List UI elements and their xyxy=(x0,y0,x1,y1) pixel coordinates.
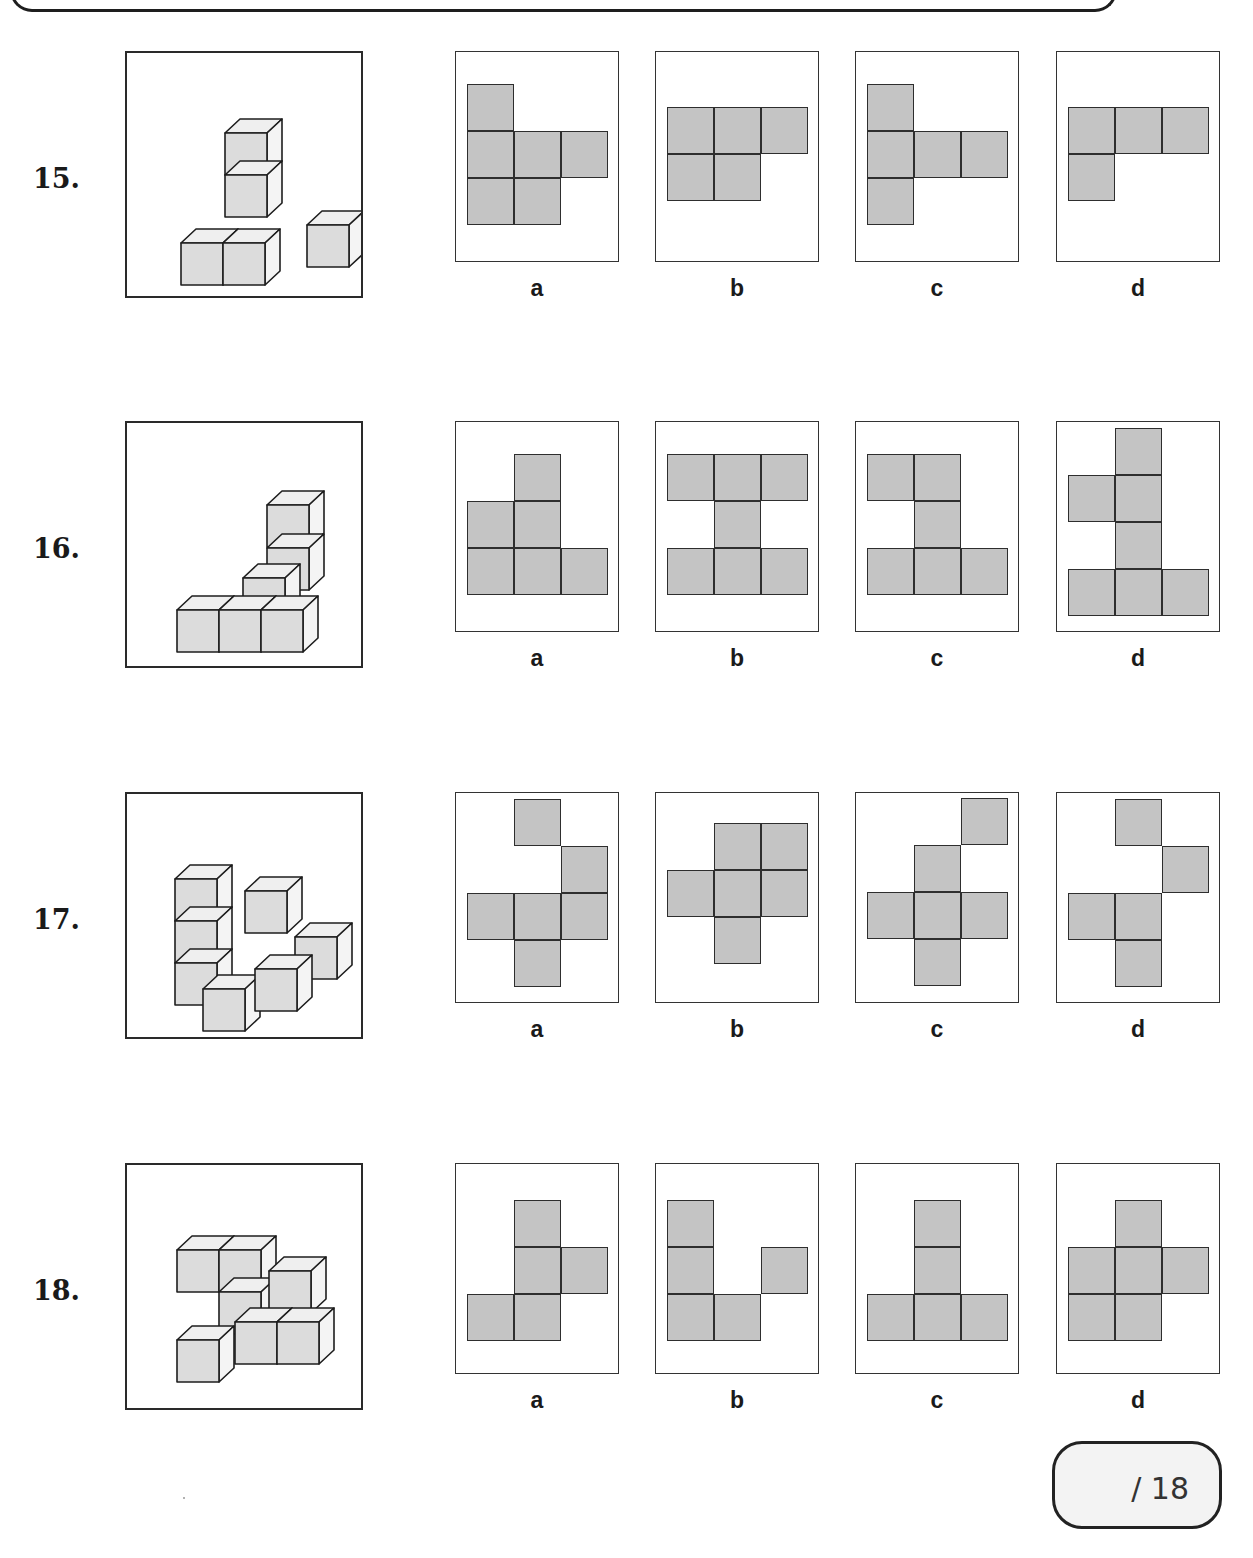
answer-option-c[interactable]: c xyxy=(855,792,1019,1003)
net-square xyxy=(867,84,914,131)
net-square xyxy=(1162,107,1209,154)
net-square xyxy=(514,1200,561,1247)
answer-option-a[interactable]: a xyxy=(455,792,619,1003)
net-square xyxy=(514,799,561,846)
score-total: / 18 xyxy=(1131,1471,1189,1506)
answer-option-d[interactable]: d xyxy=(1056,792,1220,1003)
answer-option-c[interactable]: c xyxy=(855,1163,1019,1374)
net-diagram[interactable] xyxy=(455,51,619,262)
net-diagram[interactable] xyxy=(455,792,619,1003)
question-number: 15. xyxy=(33,163,113,194)
net-square xyxy=(1115,522,1162,569)
net-square xyxy=(914,939,961,986)
answer-option-a[interactable]: a xyxy=(455,421,619,632)
net-square xyxy=(1115,428,1162,475)
net-square xyxy=(667,454,714,501)
net-square xyxy=(961,548,1008,595)
answer-option-d[interactable]: d xyxy=(1056,1163,1220,1374)
answer-option-c[interactable]: c xyxy=(855,421,1019,632)
net-square xyxy=(1068,475,1115,522)
net-square xyxy=(714,154,761,201)
net-square xyxy=(1068,107,1115,154)
answer-option-d[interactable]: d xyxy=(1056,421,1220,632)
option-label: c xyxy=(855,1016,1019,1043)
net-square xyxy=(467,131,514,178)
net-square xyxy=(761,1247,808,1294)
net-square xyxy=(514,548,561,595)
option-label: c xyxy=(855,275,1019,302)
answer-option-a[interactable]: a xyxy=(455,51,619,262)
net-square xyxy=(714,454,761,501)
option-label: b xyxy=(655,275,819,302)
net-square xyxy=(514,178,561,225)
net-square xyxy=(1068,893,1115,940)
net-square xyxy=(914,1247,961,1294)
question-row: 15.abcd xyxy=(0,50,1253,350)
net-square xyxy=(867,892,914,939)
net-square xyxy=(514,131,561,178)
net-square xyxy=(514,893,561,940)
net-square xyxy=(914,1200,961,1247)
option-label: a xyxy=(455,1387,619,1414)
net-square xyxy=(1068,154,1115,201)
net-square xyxy=(514,454,561,501)
answer-option-c[interactable]: c xyxy=(855,51,1019,262)
question-number: 16. xyxy=(33,533,113,564)
net-square xyxy=(667,1294,714,1341)
net-square xyxy=(1162,846,1209,893)
net-square xyxy=(1115,799,1162,846)
answer-option-b[interactable]: b xyxy=(655,421,819,632)
answer-option-b[interactable]: b xyxy=(655,1163,819,1374)
net-square xyxy=(1115,569,1162,616)
net-square xyxy=(514,940,561,987)
net-square xyxy=(714,107,761,154)
net-diagram[interactable] xyxy=(655,421,819,632)
question-number: 18. xyxy=(33,1275,113,1306)
net-square xyxy=(867,178,914,225)
net-square xyxy=(714,1294,761,1341)
net-diagram[interactable] xyxy=(855,792,1019,1003)
net-square xyxy=(467,1294,514,1341)
question-row: 16.abcd xyxy=(0,420,1253,720)
net-square xyxy=(561,548,608,595)
net-diagram[interactable] xyxy=(655,792,819,1003)
net-square xyxy=(961,798,1008,845)
net-diagram[interactable] xyxy=(1056,421,1220,632)
net-diagram[interactable] xyxy=(855,51,1019,262)
net-square xyxy=(1068,1247,1115,1294)
answer-option-a[interactable]: a xyxy=(455,1163,619,1374)
net-square xyxy=(667,548,714,595)
net-square xyxy=(467,548,514,595)
net-square xyxy=(867,548,914,595)
option-label: c xyxy=(855,645,1019,672)
net-square xyxy=(514,1247,561,1294)
net-square xyxy=(914,454,961,501)
net-square xyxy=(561,846,608,893)
net-square xyxy=(1115,1247,1162,1294)
net-diagram[interactable] xyxy=(655,1163,819,1374)
option-label: b xyxy=(655,645,819,672)
option-label: b xyxy=(655,1387,819,1414)
net-square xyxy=(914,548,961,595)
option-label: a xyxy=(455,1016,619,1043)
net-diagram[interactable] xyxy=(1056,51,1220,262)
answer-option-b[interactable]: b xyxy=(655,51,819,262)
net-diagram[interactable] xyxy=(655,51,819,262)
cube-figure xyxy=(125,421,363,668)
net-square xyxy=(867,131,914,178)
cube-figure xyxy=(125,792,363,1039)
net-diagram[interactable] xyxy=(455,1163,619,1374)
net-square xyxy=(1068,569,1115,616)
net-diagram[interactable] xyxy=(455,421,619,632)
net-diagram[interactable] xyxy=(1056,1163,1220,1374)
net-square xyxy=(867,1294,914,1341)
net-square xyxy=(561,1247,608,1294)
net-diagram[interactable] xyxy=(855,421,1019,632)
question-row: 17.abcd xyxy=(0,791,1253,1091)
answer-option-d[interactable]: d xyxy=(1056,51,1220,262)
answer-option-b[interactable]: b xyxy=(655,792,819,1003)
option-label: d xyxy=(1056,1387,1220,1414)
net-diagram[interactable] xyxy=(855,1163,1019,1374)
option-label: c xyxy=(855,1387,1019,1414)
net-diagram[interactable] xyxy=(1056,792,1220,1003)
